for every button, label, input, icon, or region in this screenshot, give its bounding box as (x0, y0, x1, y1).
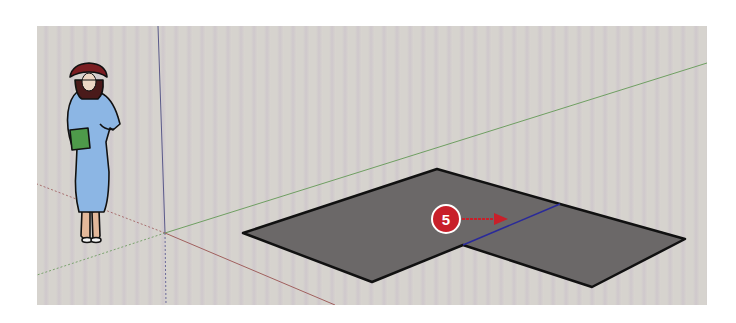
blue-axis (158, 26, 165, 233)
figure-legs (81, 210, 100, 240)
scene-canvas[interactable]: 5 (37, 26, 707, 305)
3d-viewport[interactable]: 5 (37, 26, 707, 305)
l-shaped-face[interactable] (243, 169, 685, 287)
scale-figure-woman[interactable] (68, 63, 121, 243)
figure-shoe-right (91, 238, 101, 243)
blue-axis-negative (165, 233, 166, 305)
figure-book (70, 128, 90, 150)
figure-dress (68, 91, 121, 212)
figure-face (82, 73, 96, 91)
step-number: 5 (442, 211, 450, 228)
